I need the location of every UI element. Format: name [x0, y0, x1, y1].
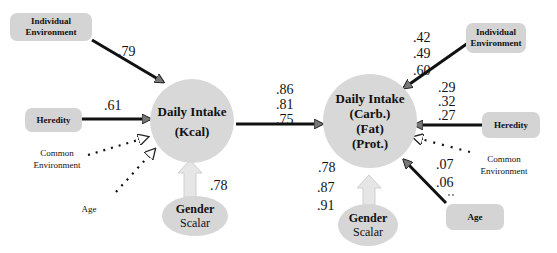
label-line: (Carb.) [350, 106, 391, 121]
coef-indenv-macros-2: .49 [413, 46, 431, 61]
label-line: Scalar [353, 225, 383, 239]
coef-kcal-macros-1: .86 [276, 82, 294, 97]
label-line: Daily Intake [336, 91, 405, 106]
arrow-commonenv-kcal [88, 137, 148, 155]
label-line: Environment [471, 38, 522, 49]
coef-heredity-macros-2: .32 [438, 94, 456, 109]
label-line: Common [24, 147, 90, 159]
label-line: Common [472, 153, 536, 165]
path-diagram: Individual Environment .79 Heredity .61 … [0, 0, 557, 253]
label-line: (Fat) [356, 121, 383, 136]
coef-kcal-macros-3: .75 [276, 112, 294, 127]
label-line: Scalar [180, 216, 210, 230]
node-age-left: Age [74, 203, 104, 215]
arrow-gender-kcal [178, 160, 202, 197]
label-line: Environment [472, 165, 536, 177]
label-line: Individual [476, 27, 516, 38]
label-line: Individual [31, 16, 71, 27]
node-common-environment-left: Common Environment [24, 147, 90, 171]
coef-heredity-kcal: .61 [104, 98, 122, 113]
arrow-commonenv-macros [413, 137, 470, 152]
coef-heredity-macros-3: .27 [438, 108, 456, 123]
node-common-environment-right: Common Environment [472, 153, 536, 177]
label-line: Environment [24, 159, 90, 171]
node-gender-scalar-left: Gender Scalar [162, 196, 228, 236]
coef-indenv-macros-1: .42 [413, 30, 431, 45]
node-gender-scalar-right: Gender Scalar [338, 204, 398, 246]
label-line: Daily Intake [158, 103, 227, 120]
node-individual-environment-left: Individual Environment [10, 13, 92, 41]
label-line: Gender [176, 202, 215, 216]
arrow-gender-macros [357, 175, 381, 205]
label-line: (Prot.) [352, 136, 388, 151]
coef-age-macros: .06 [436, 175, 454, 190]
label-line: Gender [349, 211, 388, 225]
arrow-age-kcal [116, 149, 155, 192]
label-line: Environment [26, 27, 77, 38]
coef-gender-macros-3: .91 [317, 198, 335, 213]
coef-commonenv-macros: .07 [436, 157, 454, 172]
coef-gender-macros-2: .87 [317, 180, 335, 195]
node-daily-intake-kcal: Daily Intake (Kcal) [150, 79, 234, 163]
coef-gender-macros-1: .78 [318, 160, 336, 175]
node-individual-environment-right: Individual Environment [466, 23, 526, 53]
node-age-right: Age [446, 204, 504, 230]
label-line: (Kcal) [175, 123, 210, 140]
node-heredity-left: Heredity [25, 108, 82, 132]
label-line: Heredity [37, 115, 71, 126]
coef-indenv-macros-3: .60 [413, 63, 431, 78]
label-line: Heredity [494, 120, 528, 131]
coef-indenv-kcal: .79 [118, 44, 136, 59]
coef-gender-kcal: .78 [210, 178, 228, 193]
label-line: Age [468, 212, 483, 223]
coef-heredity-macros-1: .29 [438, 80, 456, 95]
coef-kcal-macros-2: .81 [276, 97, 294, 112]
node-daily-intake-macros: Daily Intake (Carb.) (Fat) (Prot.) [323, 74, 417, 168]
node-heredity-right: Heredity [482, 112, 540, 138]
